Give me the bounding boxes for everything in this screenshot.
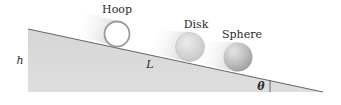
sphere-icon (224, 43, 253, 72)
angle-label: θ (257, 80, 265, 93)
length-label: L (145, 58, 153, 71)
disk-icon (176, 33, 205, 62)
hoop-icon (105, 22, 130, 47)
incline-diagram: Hoop Disk Sphere h L θ (0, 0, 341, 105)
height-label: h (16, 54, 23, 67)
disk-label: Disk (184, 18, 209, 31)
hoop-label: Hoop (102, 3, 132, 16)
sphere-label: Sphere (222, 28, 262, 41)
